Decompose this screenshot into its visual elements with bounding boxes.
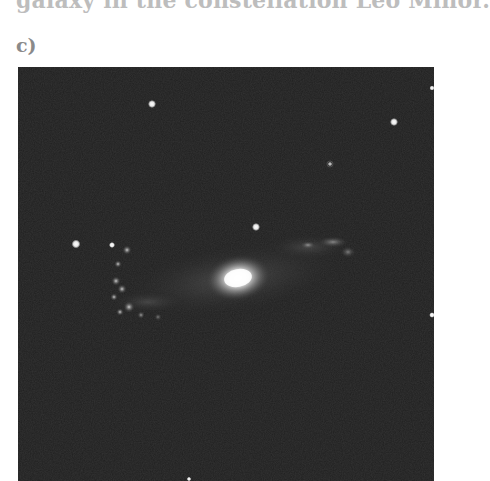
galaxy-photo-graphic: [18, 67, 434, 481]
cropped-body-text: galaxy in the constellation Leo Minor.: [16, 0, 490, 13]
galaxy-image: [18, 67, 434, 481]
figure-label: c): [16, 34, 37, 56]
